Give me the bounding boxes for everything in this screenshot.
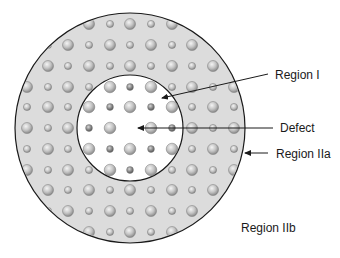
atom [127,84,134,91]
label-region-iib: Region IIb [241,221,296,235]
atom [208,185,219,196]
atom [43,144,54,155]
atom [83,101,95,113]
atom [44,83,51,90]
atom [64,103,71,110]
atom [104,164,116,176]
atom [63,82,74,93]
atom [104,122,116,134]
atom [125,227,136,238]
atom [188,145,195,152]
atom [107,104,114,111]
atom [22,123,33,134]
atom [63,123,74,134]
atom [148,146,155,153]
atom [188,186,195,193]
atom [43,61,54,72]
atom [63,165,74,176]
atom [85,83,92,90]
atom [105,206,116,217]
atom [209,166,216,173]
atom [125,61,136,72]
atom [63,40,74,51]
atom [208,144,219,155]
atom [85,41,92,48]
atom [188,103,195,110]
atom [168,83,175,90]
atom [146,206,157,217]
atom [230,103,237,110]
atom [208,61,219,72]
atom [124,143,136,155]
atom [84,61,95,72]
atom [187,165,198,176]
atom [104,81,116,93]
atom [168,207,175,214]
label-defect: Defect [280,121,315,135]
atom [147,228,154,235]
atom [63,206,74,217]
atom [126,41,133,48]
atom [187,206,198,217]
atom [147,186,154,193]
label-region-iia: Region IIa [276,147,331,161]
atom [148,104,155,111]
atom [167,61,178,72]
atom [147,20,154,27]
atom [44,166,51,173]
atom [85,207,92,214]
atom [125,19,136,30]
atom [44,124,51,131]
atom [23,145,30,152]
atom [166,143,178,155]
atom [188,62,195,69]
atom [145,81,157,93]
atom [43,185,54,196]
atom [230,145,237,152]
label-region-i: Region I [275,68,320,82]
atom [85,166,92,173]
atom [106,62,113,69]
atom [147,62,154,69]
atom [106,20,113,27]
atom [146,40,157,51]
atom [105,40,116,51]
atom [106,228,113,235]
atom [145,164,157,176]
atom [64,145,71,152]
atom [208,102,219,113]
atom [106,186,113,193]
atom [187,40,198,51]
atom [168,41,175,48]
atom [43,102,54,113]
atom [107,146,114,153]
atom [125,185,136,196]
atom [126,207,133,214]
atom [86,125,93,132]
atom [168,166,175,173]
atom [166,101,178,113]
atom [124,101,136,113]
atom [167,185,178,196]
atom [64,62,71,69]
atom [84,185,95,196]
atom [83,143,95,155]
atom [23,103,30,110]
atom [127,167,134,174]
atom [64,186,71,193]
